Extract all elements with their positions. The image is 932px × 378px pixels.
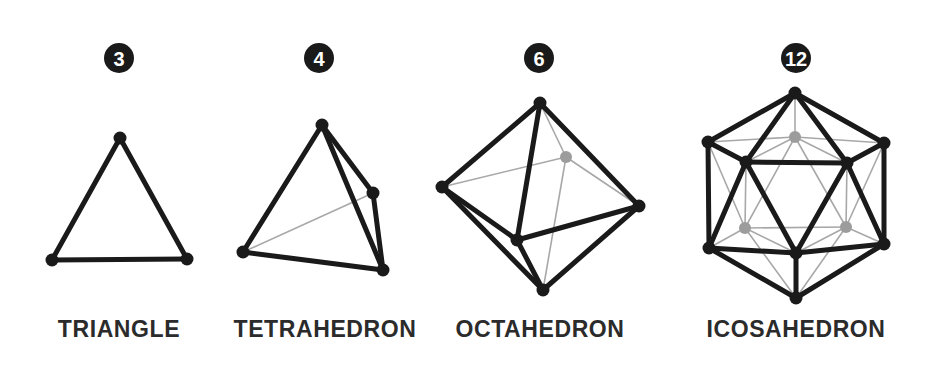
figure-octahedron: 6OCTAHEDRON (436, 43, 646, 342)
badge-label-tetrahedron: 4 (313, 48, 325, 70)
vertex (114, 132, 127, 145)
vertex (702, 136, 715, 149)
vertex (534, 97, 547, 110)
edge (52, 138, 120, 260)
hidden-edge (745, 162, 746, 228)
vertex (841, 157, 854, 170)
vertex (790, 292, 803, 305)
vertex (511, 234, 524, 247)
caption-octahedron: OCTAHEDRON (455, 316, 624, 342)
edge (243, 125, 322, 252)
figure-triangle: 3TRIANGLE (46, 43, 194, 342)
hidden-vertex (560, 151, 572, 163)
hidden-edge (708, 142, 745, 228)
edge (709, 162, 746, 248)
hidden-edge (566, 157, 639, 206)
polyhedra-diagram: 3TRIANGLE4TETRAHEDRON6OCTAHEDRON12ICOSAH… (0, 0, 932, 378)
caption-icosahedron: ICOSAHEDRON (706, 316, 885, 342)
hidden-vertex (789, 131, 801, 143)
edge (243, 252, 383, 270)
vertex (367, 187, 380, 200)
vertex (790, 247, 803, 260)
vertex (878, 238, 891, 251)
badge-label-octahedron: 6 (533, 48, 544, 70)
edge (746, 162, 847, 163)
edge (517, 103, 540, 240)
edge (709, 248, 796, 253)
hidden-vertex (739, 222, 751, 234)
hidden-vertex (840, 221, 852, 233)
badge-label-triangle: 3 (113, 48, 124, 70)
edge (708, 142, 709, 248)
figure-icosahedron: 12ICOSAHEDRON (702, 43, 891, 342)
caption-tetrahedron: TETRAHEDRON (234, 316, 417, 342)
edge (708, 93, 795, 142)
caption-triangle: TRIANGLE (58, 316, 180, 342)
vertex (46, 254, 59, 267)
vertex (537, 284, 550, 297)
vertex (740, 156, 753, 169)
edge (709, 248, 796, 298)
hidden-edge (708, 137, 795, 142)
hidden-edge (846, 163, 847, 227)
vertex (878, 137, 891, 150)
vertex (789, 87, 802, 100)
edge (52, 259, 187, 260)
vertex (181, 253, 194, 266)
diagram-canvas: 3TRIANGLE4TETRAHEDRON6OCTAHEDRON12ICOSAH… (0, 0, 932, 378)
edge (795, 93, 884, 143)
edge (795, 93, 847, 163)
edge (847, 163, 884, 244)
vertex (703, 242, 716, 255)
vertex (237, 246, 250, 259)
edge (540, 103, 639, 206)
figure-tetrahedron: 4TETRAHEDRON (234, 43, 417, 342)
badge-label-icosahedron: 12 (785, 48, 807, 70)
vertex (377, 264, 390, 277)
vertex (316, 119, 329, 132)
edge (120, 138, 187, 259)
hidden-edge (540, 103, 566, 157)
vertex (436, 181, 449, 194)
hidden-edge (745, 227, 846, 228)
vertex (633, 200, 646, 213)
